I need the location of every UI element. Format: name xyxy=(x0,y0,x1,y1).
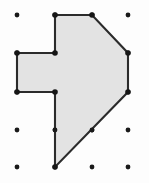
polygon-vertex xyxy=(125,50,131,56)
grid-dot xyxy=(15,128,20,133)
geoboard-canvas xyxy=(0,0,149,183)
grid-dot xyxy=(15,165,20,170)
polygon-vertex xyxy=(89,12,95,18)
polygon-vertex xyxy=(52,50,58,56)
grid-dot xyxy=(126,13,131,18)
geoboard-figure: Geoboard polygon on dot grid xyxy=(0,0,149,183)
polygon-vertex xyxy=(52,12,58,18)
polygon-vertex xyxy=(14,89,20,95)
grid-dot xyxy=(15,13,20,18)
polygon-vertex xyxy=(14,50,20,56)
grid-dot xyxy=(126,165,131,170)
grid-dot xyxy=(126,128,131,133)
grid-dot xyxy=(90,165,95,170)
polygon-vertex xyxy=(125,89,131,95)
edge-dot xyxy=(53,128,58,133)
polygon-vertex xyxy=(52,164,58,170)
edge-dot xyxy=(90,128,95,133)
polygon-vertex xyxy=(52,89,58,95)
